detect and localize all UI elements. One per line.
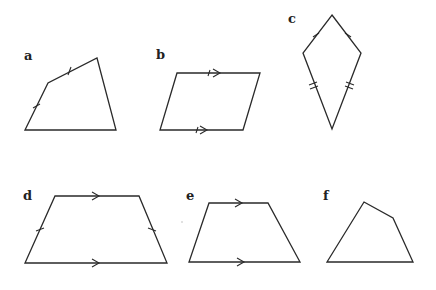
shape-b-outline <box>160 73 260 130</box>
double-tick-mark <box>345 86 353 89</box>
shape-f-outline <box>327 202 413 262</box>
shape-c: c <box>288 11 361 129</box>
shape-a-label: a <box>24 48 33 63</box>
double-tick-mark <box>309 82 317 85</box>
shape-b-label: b <box>156 47 165 62</box>
shape-d: d <box>23 188 167 267</box>
shape-e: e <box>181 188 300 266</box>
shape-e-label: e <box>186 188 194 203</box>
shape-a: a <box>24 48 116 130</box>
shape-e-outline <box>189 203 300 262</box>
shape-c-outline <box>303 15 361 129</box>
shape-f-label: f <box>323 188 330 203</box>
shape-d-label: d <box>23 188 32 203</box>
shapes-diagram: a b c d e <box>0 0 436 290</box>
stray-dot <box>181 221 183 223</box>
shape-d-outline <box>25 196 167 263</box>
shape-c-label: c <box>288 11 296 26</box>
shape-b: b <box>156 47 260 134</box>
shape-f: f <box>323 188 413 262</box>
